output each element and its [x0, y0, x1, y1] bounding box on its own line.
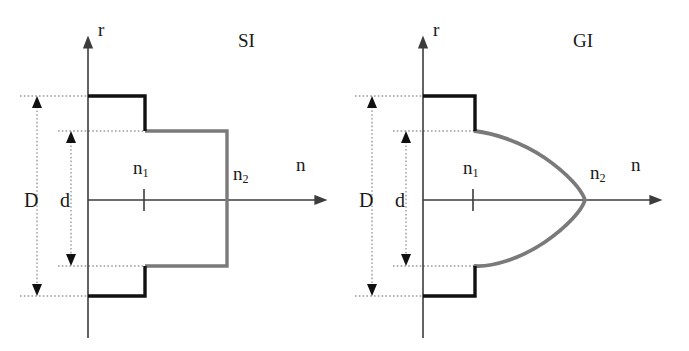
gi-n2-label: n2 — [590, 163, 606, 185]
si-dimension-D-arrowhead-bottom — [32, 284, 42, 296]
si-panel-title: SI — [238, 31, 255, 50]
gi-dimension-d-arrowhead-top — [401, 131, 411, 143]
si-dimension-d-arrowhead-bottom — [66, 254, 76, 266]
si-n2-label-sub: 2 — [243, 172, 249, 186]
gi-dimension-d-arrowhead-bottom — [401, 254, 411, 266]
gi-graded-index-curve — [475, 131, 585, 266]
gi-n1-label-sub: 1 — [473, 166, 479, 180]
si-cladding-profile — [145, 131, 227, 266]
gi-n1-label: n1 — [463, 158, 479, 180]
si-n1-label-base: n — [133, 157, 143, 178]
gi-panel-title: GI — [573, 31, 593, 50]
gi-n1-label-base: n — [463, 157, 473, 178]
si-n1-label-sub: 1 — [143, 166, 149, 180]
gi-n2-label-base: n — [590, 162, 600, 183]
si-r-axis-label: r — [98, 20, 104, 39]
gi-core-profile-bottom — [423, 266, 475, 296]
si-dimension-D-label: D — [24, 190, 38, 210]
si-core-profile-bottom — [88, 266, 145, 296]
gi-dimension-D-label: D — [359, 190, 373, 210]
si-core-profile-top — [88, 96, 145, 131]
gi-r-axis-label: r — [433, 20, 439, 39]
si-dimension-D-arrowhead-top — [32, 96, 42, 108]
si-dimension-d-arrowhead-top — [66, 131, 76, 143]
gi-dimension-D-arrowhead-bottom — [367, 284, 377, 296]
figure-canvas — [0, 0, 689, 351]
si-dimension-d-label: d — [60, 190, 70, 210]
si-n-axis-label: n — [296, 155, 306, 174]
si-n2-label: n2 — [233, 164, 249, 186]
si-n2-label-base: n — [233, 163, 243, 184]
refractive-index-profile-figure: SI r n D d n1 n2 GI r n D d n1 n2 — [0, 0, 689, 351]
gi-core-profile-top — [423, 96, 475, 131]
gi-n2-label-sub: 2 — [600, 171, 606, 185]
gi-dimension-D-arrowhead-top — [367, 96, 377, 108]
si-n1-label: n1 — [133, 158, 149, 180]
gi-dimension-d-label: d — [395, 190, 405, 210]
gi-n-axis-label: n — [631, 155, 641, 174]
